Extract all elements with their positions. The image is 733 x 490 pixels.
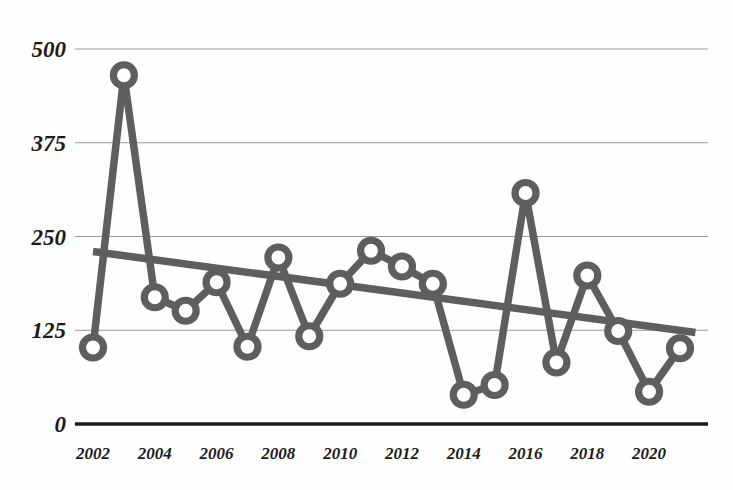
x-tick-label-2016: 2016 xyxy=(508,444,544,463)
x-axis-tick-labels: 2002200420062008201020122014201620182020 xyxy=(75,444,667,463)
data-point-2012[interactable] xyxy=(391,256,412,277)
data-point-2014[interactable] xyxy=(453,384,474,405)
series-markers-group xyxy=(83,65,691,406)
data-point-2016[interactable] xyxy=(515,183,536,204)
data-point-2011[interactable] xyxy=(361,240,382,261)
data-point-2006[interactable] xyxy=(206,272,227,293)
data-point-2005[interactable] xyxy=(175,300,196,321)
data-point-2015[interactable] xyxy=(484,375,505,396)
y-axis-tick-labels: 0125250375500 xyxy=(31,37,67,437)
x-tick-label-2018: 2018 xyxy=(569,444,605,463)
data-point-2009[interactable] xyxy=(299,326,320,347)
data-point-2018[interactable] xyxy=(577,265,598,286)
chart-canvas: 0125250375500 20022004200620082010201220… xyxy=(0,0,733,490)
data-point-2020[interactable] xyxy=(639,381,660,402)
y-tick-label-500: 500 xyxy=(32,37,67,62)
data-point-2017[interactable] xyxy=(546,352,567,373)
y-tick-label-375: 375 xyxy=(31,131,67,156)
data-point-2019[interactable] xyxy=(608,321,629,342)
data-point-2008[interactable] xyxy=(268,247,289,268)
line-chart: 0125250375500 20022004200620082010201220… xyxy=(0,0,733,490)
x-tick-label-2002: 2002 xyxy=(75,444,111,463)
data-point-2013[interactable] xyxy=(422,273,443,294)
y-tick-label-0: 0 xyxy=(55,412,67,437)
data-point-2007[interactable] xyxy=(237,336,258,357)
data-point-2004[interactable] xyxy=(144,287,165,308)
x-tick-label-2006: 2006 xyxy=(199,444,235,463)
data-point-2021[interactable] xyxy=(670,338,691,359)
data-point-2010[interactable] xyxy=(330,273,351,294)
y-tick-label-250: 250 xyxy=(31,225,67,250)
x-tick-label-2012: 2012 xyxy=(384,444,420,463)
x-tick-label-2010: 2010 xyxy=(322,444,358,463)
x-tick-label-2014: 2014 xyxy=(446,444,481,463)
x-tick-label-2008: 2008 xyxy=(260,444,296,463)
x-tick-label-2004: 2004 xyxy=(137,444,172,463)
data-point-2002[interactable] xyxy=(83,337,104,358)
y-tick-label-125: 125 xyxy=(32,318,67,343)
x-tick-label-2020: 2020 xyxy=(631,444,667,463)
data-point-2003[interactable] xyxy=(113,65,134,86)
series-line-values xyxy=(93,75,680,395)
